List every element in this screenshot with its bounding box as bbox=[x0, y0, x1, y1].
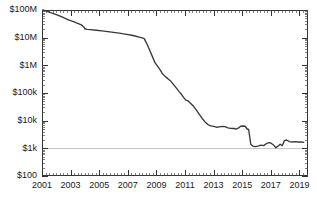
x-axis-tick-label: 2017 bbox=[261, 180, 281, 190]
y-axis-labels: $100M$10M$1M$100k$10k$1k$100 bbox=[9, 4, 37, 180]
y-axis-tick-label: $100k bbox=[12, 87, 37, 97]
x-axis-tick-label: 2009 bbox=[146, 180, 166, 190]
y-axis-tick-label: $10k bbox=[17, 115, 37, 125]
y-axis-tick-label: $10M bbox=[14, 32, 37, 42]
data-series bbox=[43, 10, 304, 148]
y-axis-tick-label: $1k bbox=[22, 143, 37, 153]
y-axis-tick-label: $100 bbox=[17, 170, 37, 180]
x-axis-tick-label: 2011 bbox=[175, 180, 194, 190]
x-axis-tick-label: 2007 bbox=[118, 180, 138, 190]
x-axis-tick-label: 2015 bbox=[232, 180, 252, 190]
x-axis-labels: 2001200320052007200920112013201520172019 bbox=[32, 180, 309, 190]
x-axis-tick-label: 2005 bbox=[89, 180, 109, 190]
x-axis-tick-label: 2019 bbox=[289, 180, 309, 190]
chart-container: $100M$10M$1M$100k$10k$1k$100 20012003200… bbox=[0, 0, 317, 198]
x-axis-tick-label: 2003 bbox=[61, 180, 81, 190]
y-axis-tick-label: $100M bbox=[9, 4, 37, 14]
x-axis-tick-label: 2001 bbox=[32, 180, 52, 190]
y-axis-ticks bbox=[42, 11, 308, 177]
y-axis-tick-label: $1M bbox=[19, 60, 37, 70]
x-axis-tick-label: 2013 bbox=[204, 180, 224, 190]
plot-frame bbox=[43, 11, 308, 176]
x-axis-ticks bbox=[43, 10, 308, 176]
series-line-value bbox=[43, 10, 304, 148]
log-line-chart: $100M$10M$1M$100k$10k$1k$100 20012003200… bbox=[0, 0, 317, 198]
